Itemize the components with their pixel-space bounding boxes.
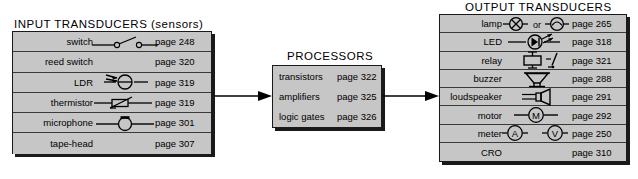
table-row[interactable]: meter A V page 250: [440, 125, 626, 143]
page-reference: page 320: [153, 56, 211, 67]
table-row[interactable]: logic gates page 326: [273, 107, 381, 127]
no-symbol: [506, 143, 570, 161]
ldr-symbol: [97, 73, 153, 92]
processors-table: transistors page 322 amplifiers page 325…: [272, 65, 382, 128]
table-row[interactable]: transistors page 322: [273, 66, 381, 86]
table-row[interactable]: switch page 248: [13, 32, 211, 52]
table-row[interactable]: lamp or page 265: [440, 15, 626, 33]
page-reference: page 301: [153, 117, 211, 128]
transducer-label: thermistor: [13, 97, 97, 108]
arrow-input-to-processors: [214, 89, 274, 103]
transducer-label: loudspeaker: [440, 91, 506, 102]
motor-symbol: M: [506, 106, 570, 123]
page-reference: page 325: [337, 91, 377, 102]
table-row[interactable]: microphone page 301: [13, 113, 211, 133]
page-reference: page 319: [153, 97, 211, 108]
page-reference: page 250: [570, 128, 626, 139]
page-reference: page 310: [570, 147, 626, 158]
processor-label: amplifiers: [279, 91, 337, 102]
transducer-label: reed switch: [13, 56, 97, 67]
output-transducers-heading: OUTPUT TRANSDUCERS: [465, 1, 612, 13]
processors-heading: PROCESSORS: [287, 50, 373, 62]
switch-symbol: [97, 32, 153, 51]
page-reference: page 321: [570, 55, 626, 66]
table-row[interactable]: loudspeaker page 291: [440, 88, 626, 106]
relay-symbol: [506, 52, 570, 69]
table-row[interactable]: amplifiers page 325: [273, 86, 381, 106]
page-reference: page 291: [570, 91, 626, 102]
no-symbol: [97, 133, 153, 153]
transducer-label: switch: [13, 36, 97, 47]
table-row[interactable]: reed switch page 320: [13, 52, 211, 72]
table-row[interactable]: tape-head page 307: [13, 133, 211, 153]
no-symbol: [97, 52, 153, 71]
transducer-label: meter: [440, 128, 506, 139]
transducer-label: motor: [440, 110, 506, 121]
input-transducers-heading: INPUT TRANSDUCERS (sensors): [14, 18, 203, 30]
svg-text:or: or: [533, 19, 541, 29]
table-row[interactable]: thermistor page 319: [13, 93, 211, 113]
loudspeaker-symbol: [506, 88, 570, 105]
transducer-label: relay: [440, 55, 506, 66]
voltmeter-letter: V: [552, 128, 559, 139]
processor-label: logic gates: [279, 111, 337, 122]
page-reference: page 307: [153, 138, 211, 149]
table-row[interactable]: motor M page 292: [440, 106, 626, 124]
buzzer-symbol: [506, 70, 570, 87]
page-reference: page 265: [570, 18, 626, 29]
input-transducers-table: switch page 248 reed switch page 320 LDR: [12, 31, 212, 154]
table-row[interactable]: CRO page 310: [440, 143, 626, 161]
table-row[interactable]: LDR page 319: [13, 73, 211, 93]
table-row[interactable]: relay page 321: [440, 52, 626, 70]
motor-letter: M: [532, 110, 540, 121]
transducer-label: LDR: [13, 77, 97, 88]
diagram-canvas: INPUT TRANSDUCERS (sensors) switch page …: [0, 0, 638, 179]
page-reference: page 288: [570, 73, 626, 84]
page-reference: page 326: [337, 111, 377, 122]
microphone-symbol: [97, 113, 153, 132]
thermistor-symbol: [97, 93, 153, 112]
transducer-label: lamp: [440, 18, 506, 29]
page-reference: page 318: [570, 36, 626, 47]
table-row[interactable]: buzzer page 288: [440, 70, 626, 88]
table-row[interactable]: LED page 318: [440, 33, 626, 51]
page-reference: page 322: [337, 71, 377, 82]
processor-label: transistors: [279, 71, 337, 82]
transducer-label: microphone: [13, 117, 97, 128]
page-reference: page 292: [570, 110, 626, 121]
lamp-symbol: or: [506, 15, 570, 32]
page-reference: page 319: [153, 77, 211, 88]
transducer-label: tape-head: [13, 138, 97, 149]
ammeter-letter: A: [512, 128, 519, 139]
page-reference: page 248: [153, 36, 211, 47]
transducer-label: buzzer: [440, 73, 506, 84]
transducer-label: LED: [440, 36, 506, 47]
transducer-label: CRO: [440, 147, 506, 158]
arrow-processors-to-output: [383, 89, 441, 103]
meter-symbol: A V: [506, 125, 570, 142]
led-symbol: [506, 33, 570, 50]
output-transducers-table: lamp or page 265 LED: [439, 14, 627, 162]
